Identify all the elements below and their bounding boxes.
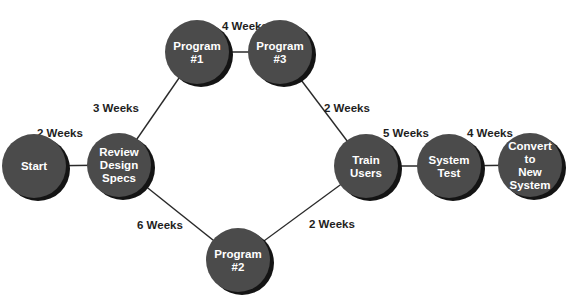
node-label-line: Convert bbox=[508, 140, 552, 152]
edge-duration-label: 2 Weeks bbox=[324, 102, 370, 114]
node-label-line: Specs bbox=[102, 172, 136, 184]
node-train: TrainUsers bbox=[334, 134, 402, 201]
node-label-line: Program bbox=[173, 40, 220, 52]
node-label-line: Program bbox=[256, 40, 303, 52]
node-program3: Program#3 bbox=[248, 20, 316, 87]
node-convert: ConverttoNewSystem bbox=[498, 133, 566, 200]
edge-duration-label: 4 Weeks bbox=[467, 127, 513, 139]
node-label-line: #1 bbox=[191, 53, 204, 65]
node-label-line: Train bbox=[352, 154, 379, 166]
edge-duration-label: 3 Weeks bbox=[93, 102, 139, 114]
node-label-line: Test bbox=[438, 167, 461, 179]
node-label-line: Review bbox=[99, 146, 139, 158]
pert-diagram: 2 Weeks3 Weeks4 Weeks2 Weeks6 Weeks2 Wee… bbox=[0, 0, 568, 307]
node-label-line: Design bbox=[100, 159, 138, 171]
node-systest: SystemTest bbox=[417, 134, 485, 201]
edge-duration-label: 6 Weeks bbox=[137, 219, 183, 231]
edge-duration-label: 2 Weeks bbox=[309, 218, 355, 230]
edge-duration-label: 5 Weeks bbox=[383, 127, 429, 139]
node-label-line: Start bbox=[21, 160, 47, 172]
node-label-line: #2 bbox=[232, 261, 245, 273]
node-label-line: Users bbox=[350, 167, 382, 179]
node-label-line: Program bbox=[214, 248, 261, 260]
nodes-layer: StartReviewDesignSpecsProgram#1Program#3… bbox=[2, 20, 566, 295]
node-label-line: System bbox=[510, 179, 551, 191]
node-label-line: to bbox=[525, 153, 536, 165]
node-start: Start bbox=[2, 134, 70, 201]
node-review: ReviewDesignSpecs bbox=[87, 133, 155, 200]
node-label-line: #3 bbox=[274, 53, 287, 65]
node-label-line: System bbox=[429, 154, 470, 166]
node-label-line: New bbox=[518, 166, 542, 178]
node-program2: Program#2 bbox=[206, 228, 274, 295]
